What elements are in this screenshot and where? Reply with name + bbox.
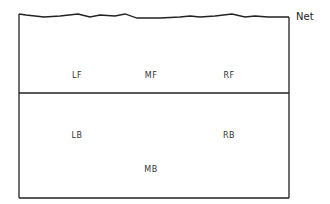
net-line [19, 14, 289, 18]
position-rb: RB [223, 131, 235, 140]
position-mb: MB [144, 165, 157, 174]
position-rf: RF [223, 71, 234, 80]
position-mf: MF [145, 71, 158, 80]
position-lb: LB [72, 131, 83, 140]
net-label: Net [296, 11, 314, 22]
court-outline [0, 0, 330, 204]
position-lf: LF [72, 71, 82, 80]
